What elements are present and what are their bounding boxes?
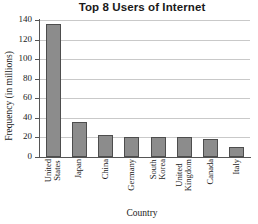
x-axis-tick-label: Germany (119, 159, 145, 205)
x-axis-tick-label-text: Japan (75, 159, 84, 178)
y-axis-tick-mark (35, 157, 39, 158)
x-axis-tick-label: China (93, 159, 119, 205)
x-axis-tick-label: Canada (198, 159, 224, 205)
bar (98, 135, 113, 157)
y-axis-tick-mark (35, 79, 39, 80)
plot-area (40, 20, 250, 157)
bar (124, 137, 139, 157)
x-axis-line (39, 157, 251, 158)
gridline (40, 98, 250, 99)
y-axis-tick-mark (35, 98, 39, 99)
x-axis-tick-label: SouthKorea (145, 159, 171, 205)
x-axis-tick-label: Japan (66, 159, 92, 205)
y-axis-tick-mark (35, 40, 39, 41)
y-axis-tick-label: 140 (6, 15, 32, 24)
y-axis-tick-label: 120 (6, 35, 32, 44)
bar (72, 122, 87, 157)
x-axis-tick-label-text: SouthKorea (149, 159, 167, 180)
x-axis-title: Country (34, 208, 250, 218)
bar-chart-figure: Top 8 Users of Internet Frequency (in mi… (0, 0, 258, 224)
x-axis-tick-label-text: Italy (232, 159, 241, 175)
y-axis-tick-mark (35, 59, 39, 60)
y-axis-tick-mark (35, 137, 39, 138)
x-axis-tick-label: Italy (224, 159, 250, 205)
y-axis-tick-label: 0 (6, 152, 32, 161)
chart-title: Top 8 Users of Internet (34, 1, 250, 13)
bar (229, 147, 244, 157)
y-axis-tick-label: 60 (6, 93, 32, 102)
y-axis-tick-mark (35, 118, 39, 119)
y-axis-tick-label: 40 (6, 113, 32, 122)
x-axis-tick-label-text: UnitedKingdom (175, 159, 193, 191)
bar (151, 137, 166, 157)
x-axis-tick-label-text: Germany (127, 159, 136, 191)
gridline (40, 118, 250, 119)
bar (46, 24, 61, 157)
gridline (40, 79, 250, 80)
gridline (40, 40, 250, 41)
x-axis-tick-label-text: UnitedStates (44, 159, 62, 182)
y-axis-tick-label: 20 (6, 132, 32, 141)
y-axis-tick-label: 100 (6, 54, 32, 63)
x-axis-tick-label: UnitedKingdom (171, 159, 197, 205)
bar (177, 137, 192, 157)
x-axis-tick-label-text: Canada (206, 159, 215, 185)
gridline (40, 20, 250, 21)
gridline (40, 59, 250, 60)
x-axis-tick-label-text: China (101, 159, 110, 179)
bar (203, 139, 218, 157)
x-axis-tick-label: UnitedStates (40, 159, 66, 205)
y-axis-tick-label: 80 (6, 74, 32, 83)
y-axis-tick-mark (35, 20, 39, 21)
